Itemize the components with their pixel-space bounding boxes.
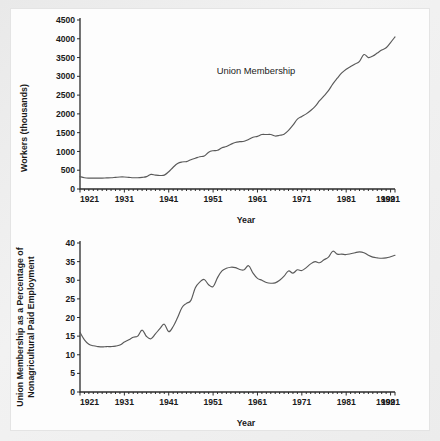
data-series-union-membership <box>80 37 395 178</box>
x-tick-label: 1971 <box>292 194 311 204</box>
y-tick-label: 20 <box>65 313 75 323</box>
y-tick-label: 0 <box>70 387 75 397</box>
x-tick-label: 1921 <box>80 397 99 407</box>
x-tick-label: 1951 <box>204 397 223 407</box>
page-frame: 050010001500200025003000350040004500 192… <box>0 0 440 441</box>
x-tick-label: 1992 <box>376 397 395 407</box>
y-tick-label: 1500 <box>56 128 75 138</box>
x-axis-title-top: Year <box>237 215 256 225</box>
y-tick-label: 2000 <box>56 109 75 119</box>
axis-tick-marks-top <box>77 20 395 193</box>
x-tick-label: 1981 <box>337 397 356 407</box>
y-tick-label: 15 <box>65 331 75 341</box>
x-tick-label: 1931 <box>115 194 134 204</box>
y-tick-label: 30 <box>65 275 75 285</box>
y-tick-label: 500 <box>61 165 76 175</box>
x-axis-title-bottom: Year <box>237 418 256 428</box>
axis-lines-top <box>80 18 395 189</box>
y-axis-title-top: Workers (thousands) <box>19 84 29 172</box>
y-tick-label: 0 <box>70 184 75 194</box>
x-axis-tick-labels-top: 192119311941195119611971198119911992 <box>80 194 400 204</box>
x-tick-label: 1931 <box>115 397 134 407</box>
x-tick-label: 1961 <box>248 194 267 204</box>
y-tick-label: 5 <box>70 368 75 378</box>
y-axis-tick-labels-top: 050010001500200025003000350040004500 <box>56 15 75 194</box>
y-tick-label: 35 <box>65 257 75 267</box>
x-tick-label: 1921 <box>80 194 99 204</box>
chart-union-membership-percentage: 0510152025303540 19211931194119511961197… <box>10 227 430 431</box>
y-tick-label: 3500 <box>56 53 75 63</box>
data-series-union-percentage <box>80 251 395 347</box>
x-tick-label: 1992 <box>376 194 395 204</box>
series-annotation-union-membership: Union Membership <box>217 65 296 76</box>
y-tick-label: 1000 <box>56 147 75 157</box>
chart-bottom-canvas: 0510152025303540 19211931194119511961197… <box>10 227 430 431</box>
chart-union-membership-absolute: 050010001500200025003000350040004500 192… <box>10 12 430 227</box>
figure-panel: 050010001500200025003000350040004500 192… <box>10 8 430 431</box>
y-tick-label: 4000 <box>56 34 75 44</box>
chart-top-canvas: 050010001500200025003000350040004500 192… <box>10 12 430 227</box>
axis-tick-marks-bottom <box>77 243 395 396</box>
y-axis-title-bottom-line1: Union Membership as a Percentage of <box>15 247 25 406</box>
axis-lines-bottom <box>80 241 395 392</box>
x-axis-tick-labels-bottom: 192119311941195119611971198119911992 <box>80 397 400 407</box>
x-tick-label: 1971 <box>292 397 311 407</box>
y-axis-title-bottom-line2: Nonagricultural Paid Employment <box>26 256 36 397</box>
x-tick-label: 1951 <box>204 194 223 204</box>
y-tick-label: 2500 <box>56 90 75 100</box>
y-tick-label: 10 <box>65 350 75 360</box>
x-tick-label: 1961 <box>248 397 267 407</box>
y-tick-label: 3000 <box>56 71 75 81</box>
y-tick-label: 40 <box>65 238 75 248</box>
y-axis-tick-labels-bottom: 0510152025303540 <box>65 238 75 397</box>
x-tick-label: 1941 <box>159 397 178 407</box>
x-tick-label: 1981 <box>337 194 356 204</box>
x-tick-label: 1941 <box>159 194 178 204</box>
y-tick-label: 25 <box>65 294 75 304</box>
y-tick-label: 4500 <box>56 15 75 25</box>
